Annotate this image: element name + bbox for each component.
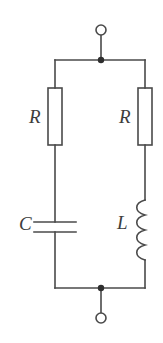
resistor-left-label: R xyxy=(29,107,41,126)
terminal-bottom-circle[interactable] xyxy=(96,313,106,323)
terminal-top-circle[interactable] xyxy=(96,25,106,35)
junction-dot-top xyxy=(98,57,104,63)
resistor-left-body xyxy=(48,88,62,145)
resistor-right-body xyxy=(138,88,152,145)
capacitor-label: C xyxy=(19,214,32,233)
resistor-right-label: R xyxy=(119,107,131,126)
circuit-diagram: R R C L xyxy=(0,0,163,343)
junction-dot-bottom xyxy=(98,285,104,291)
inductor-label: L xyxy=(117,213,128,232)
circuit-schematic-svg xyxy=(0,0,163,343)
inductor-coil xyxy=(137,200,145,260)
